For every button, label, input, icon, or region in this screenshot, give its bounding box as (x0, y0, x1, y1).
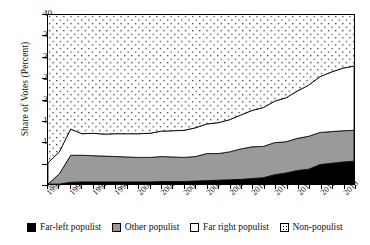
legend-swatch-dotted-icon (280, 223, 289, 232)
legend-item-far-right-populist[interactable]: Far right populist (190, 222, 268, 232)
legend-label-far-left-populist: Far-left populist (40, 222, 101, 232)
legend-item-other-populist[interactable]: Other populist (112, 222, 179, 232)
legend-label-other-populist: Other populist (125, 222, 180, 232)
legend-swatch-black-icon (27, 223, 36, 232)
legend-item-non-populist[interactable]: Non-populist (280, 222, 343, 232)
chart-figure: Share of Votes (Percent) 051015202530354… (0, 0, 370, 245)
plot-area (47, 14, 355, 185)
legend-item-far-left-populist[interactable]: Far-left populist (27, 222, 101, 232)
y-axis-title: Share of Votes (Percent) (20, 9, 30, 169)
legend-label-non-populist: Non-populist (292, 222, 342, 232)
legend-swatch-white-icon (190, 223, 199, 232)
legend-label-far-right-populist: Far right populist (203, 222, 269, 232)
stacked-area-svg (48, 15, 354, 184)
chart-legend: Far-left populist Other populist Far rig… (0, 219, 370, 235)
legend-swatch-gray-icon (112, 223, 121, 232)
